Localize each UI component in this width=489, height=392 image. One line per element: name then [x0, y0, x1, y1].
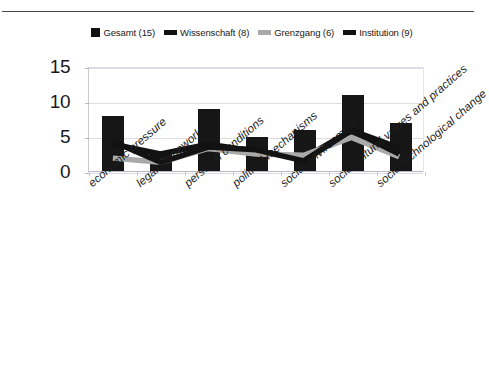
legend-swatch-square-icon — [91, 28, 100, 37]
y-axis-labels: 051015 — [22, 52, 70, 182]
legend-item-institution[interactable]: Institution (9) — [343, 27, 412, 38]
top-divider — [2, 11, 474, 12]
legend-item-grenzgang[interactable]: Grenzgang (6) — [258, 27, 334, 38]
legend-item-gesamt[interactable]: Gesamt (15) — [91, 27, 155, 38]
legend-label-grenzgang: Grenzgang (6) — [274, 27, 334, 38]
chart-legend: Gesamt (15) Wissenschaft (8) Grenzgang (… — [72, 25, 432, 39]
y-axis-tick-label: 5 — [26, 126, 70, 148]
legend-swatch-line-icon — [343, 30, 356, 35]
legend-swatch-line-gray-icon — [258, 30, 271, 35]
y-axis-tick-label: 15 — [26, 56, 70, 78]
legend-label-institution: Institution (9) — [359, 27, 412, 38]
y-axis-tick-label: 10 — [26, 91, 70, 113]
legend-item-wissenschaft[interactable]: Wissenschaft (8) — [164, 27, 249, 38]
legend-label-gesamt: Gesamt (15) — [103, 27, 155, 38]
legend-swatch-line-icon — [164, 30, 177, 35]
x-axis-category-labels: economic pressurelegal frameworkpersonal… — [0, 176, 481, 306]
legend-label-wissenschaft: Wissenschaft (8) — [180, 27, 249, 38]
